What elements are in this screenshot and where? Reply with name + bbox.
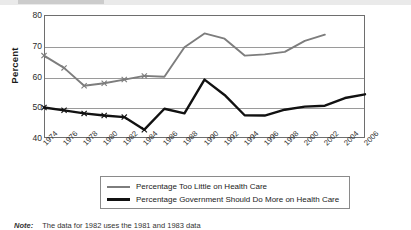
y-axis-tick-label: 80	[20, 10, 42, 20]
data-point-marker	[41, 53, 46, 58]
y-axis-tick-label: 60	[20, 72, 42, 82]
legend-swatch-gray-icon	[107, 186, 130, 188]
series-lines	[44, 15, 365, 138]
chart-legend: Percentage Too Little on Health Care Per…	[100, 176, 350, 209]
y-axis-tick-label: 50	[20, 102, 42, 112]
y-axis-tick-label: 40	[20, 133, 42, 143]
legend-item-too-little: Percentage Too Little on Health Care	[107, 180, 343, 193]
legend-swatch-black-icon	[107, 198, 130, 201]
footnote: Note: The data for 1982 uses the 1981 an…	[14, 221, 404, 230]
series-line	[44, 33, 325, 85]
legend-label: Percentage Government Should Do More on …	[136, 195, 339, 204]
footnote-text: The data for 1982 uses the 1981 and 1983…	[42, 221, 200, 230]
footnote-label: Note:	[14, 221, 33, 230]
data-point-marker	[61, 65, 66, 70]
series-line	[44, 80, 365, 130]
y-axis-title: Percent	[9, 36, 20, 96]
scan-artifact-top-dark	[18, 0, 104, 4]
y-axis-tick-label: 70	[20, 41, 42, 51]
chart-figure: Percent 4050607080 197419761978198019821…	[0, 0, 411, 230]
legend-label: Percentage Too Little on Health Care	[136, 182, 267, 191]
legend-item-do-more: Percentage Government Should Do More on …	[107, 193, 343, 206]
